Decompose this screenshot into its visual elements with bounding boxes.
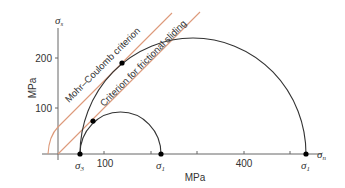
sigma1-large-label: σ1 (301, 159, 310, 173)
point-labels: σ3 σ1 σ1 Mohr–Coulomb criterion Criterio… (0, 0, 345, 188)
sigma1-small-label: σ1 (156, 159, 165, 173)
sigma3-label: σ3 (75, 159, 84, 173)
mohr-coulomb-label: Mohr–Coulomb criterion (63, 25, 142, 104)
